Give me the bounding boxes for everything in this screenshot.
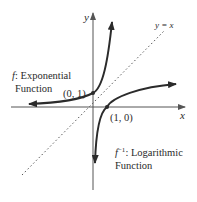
exponential-label-line2: Function [15, 83, 53, 94]
reference-line-label: y = x [154, 20, 174, 30]
exponential-label-line1: f: Exponential [12, 70, 71, 81]
exponential-point-label: (0, 1) [63, 88, 86, 100]
logarithmic-label-text: : Logarithmic [125, 147, 183, 158]
logarithmic-curve [107, 84, 176, 107]
logarithmic-curve-lower [95, 107, 107, 163]
y-axis-label: y [83, 11, 89, 23]
exponential-curve-upper [93, 22, 112, 93]
point-0-1 [91, 91, 95, 95]
logarithmic-label-line2: Function [115, 160, 153, 171]
x-axis-label: x [179, 109, 185, 121]
logarithmic-point-label: (1, 0) [110, 112, 133, 124]
exponential-label-text: : Exponential [15, 70, 71, 81]
point-1-0 [105, 105, 109, 109]
function-inverse-diagram: y x y = x f: Exponential Function (0, 1)… [0, 0, 197, 202]
logarithmic-label-line1: f−1: Logarithmic [115, 146, 183, 158]
